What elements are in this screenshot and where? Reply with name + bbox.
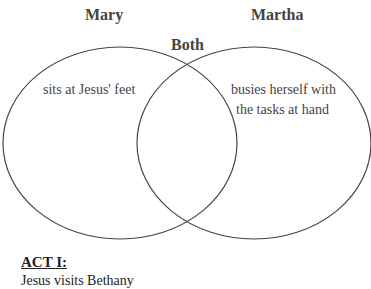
martha-item-line2: the tasks at hand bbox=[236, 100, 329, 120]
mary-item: sits at Jesus' feet bbox=[43, 80, 135, 100]
martha-circle bbox=[137, 47, 371, 239]
cutoff-text: Jesus visits Bethany bbox=[21, 273, 134, 289]
mary-circle bbox=[3, 47, 237, 239]
both-label: Both bbox=[171, 36, 204, 54]
mary-label: Mary bbox=[85, 6, 123, 24]
martha-label: Martha bbox=[251, 6, 303, 24]
section-heading: ACT I: bbox=[21, 254, 67, 271]
martha-item-line1: busies herself with bbox=[231, 80, 336, 100]
